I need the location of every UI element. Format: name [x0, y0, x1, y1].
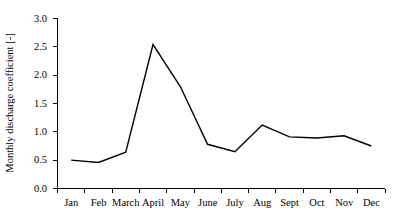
x-tick-label-sept: Sept — [280, 197, 299, 208]
x-tick-label-may: May — [171, 197, 191, 208]
x-tick-label-dec: Dec — [363, 197, 380, 208]
x-tick-label-june: June — [198, 197, 218, 208]
y-tick-label-6: 3.0 — [34, 13, 47, 24]
x-tick-label-feb: Feb — [91, 197, 107, 208]
x-tick-label-oct: Oct — [309, 197, 324, 208]
y-tick-label-0: 0.0 — [34, 183, 47, 194]
x-tick-label-july: July — [226, 197, 244, 208]
x-tick-label-march: March — [112, 197, 140, 208]
y-tick-label-5: 2.5 — [34, 41, 47, 52]
line-chart: Monthly discharge coefficient [-] 0.0 0.… — [0, 0, 403, 214]
y-tick-label-1: 0.5 — [34, 154, 47, 165]
x-tick-label-nov: Nov — [335, 197, 354, 208]
chart-background — [0, 0, 403, 214]
x-tick-label-april: April — [142, 197, 164, 208]
x-tick-label-aug: Aug — [253, 197, 272, 208]
x-tick-label-jan: Jan — [64, 197, 79, 208]
y-axis-title: Monthly discharge coefficient [-] — [4, 33, 15, 172]
chart-container: Monthly discharge coefficient [-] 0.0 0.… — [0, 0, 403, 214]
y-tick-label-3: 1.5 — [34, 98, 47, 109]
y-tick-label-4: 2.0 — [34, 69, 47, 80]
y-tick-label-2: 1.0 — [34, 126, 47, 137]
